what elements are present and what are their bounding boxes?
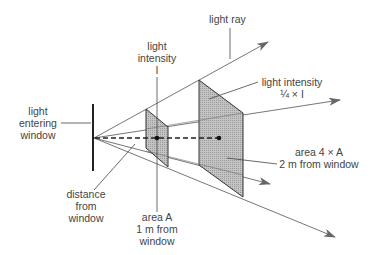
label-light-ray: light ray: [209, 13, 246, 25]
label-area-near: area A 1 m from window: [131, 211, 183, 247]
center-dot-far: [217, 136, 222, 141]
label-light-intensity-near: light intensity I: [133, 40, 181, 76]
center-dot-near: [155, 136, 160, 141]
label-light-entering-window: light entering window: [14, 105, 62, 141]
label-light-intensity-far: light intensity ¼ × I: [257, 76, 327, 100]
label-distance-from-window: distance from window: [63, 188, 109, 224]
label-area-far: area 4 × A 2 m from window: [277, 146, 361, 170]
